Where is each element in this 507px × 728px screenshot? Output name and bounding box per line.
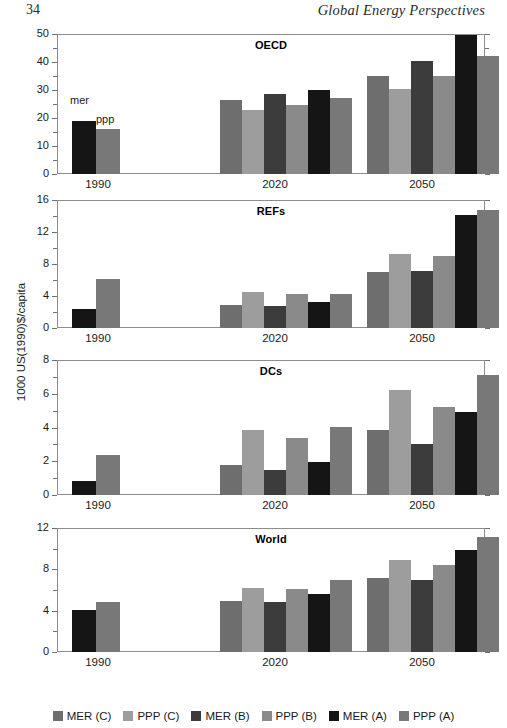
y-tick-label: 30 [11, 83, 49, 95]
bar [477, 56, 499, 174]
x-tick-label: 2050 [387, 656, 457, 668]
x-tick-label: 2020 [240, 656, 310, 668]
y-tick-mark [52, 428, 57, 429]
x-tick-label: 2020 [240, 499, 310, 511]
y-tick-mark-right [485, 146, 490, 147]
plot-area [57, 200, 485, 328]
y-minor-tick-mark [53, 411, 57, 412]
y-tick-mark-right [485, 394, 490, 395]
y-tick-mark [52, 528, 57, 529]
x-tick-label: 2050 [387, 178, 457, 190]
y-tick-mark [52, 360, 57, 361]
y-minor-tick-mark [485, 216, 489, 217]
bar [455, 35, 477, 174]
y-minor-tick-mark [485, 104, 489, 105]
chart-panel-oecd: OECD01020304050199020202050merppp [0, 0, 507, 728]
bar [308, 594, 330, 652]
bar [308, 90, 330, 174]
y-tick-mark [52, 296, 57, 297]
plot-area [57, 34, 485, 174]
y-tick-mark-right [485, 428, 490, 429]
bar [477, 537, 499, 652]
bar [367, 578, 389, 652]
panel-title: OECD [231, 39, 311, 51]
y-minor-tick-mark [485, 48, 489, 49]
y-minor-tick-mark [485, 312, 489, 313]
y-tick-mark [52, 569, 57, 570]
y-tick-mark-right [485, 232, 490, 233]
chart-panel-refs: REFs0481216199020202050 [0, 0, 507, 728]
bar [330, 580, 352, 652]
bar [72, 121, 96, 174]
y-minor-tick-mark [485, 411, 489, 412]
legend-item: PPP (B) [262, 710, 317, 722]
y-tick-label: 4 [11, 604, 49, 616]
chart-panel-dcs: DCs02468199020202050 [0, 0, 507, 728]
legend-swatch-icon [191, 711, 201, 721]
y-tick-label: 0 [11, 167, 49, 179]
legend-swatch-icon [329, 711, 339, 721]
y-tick-mark [52, 200, 57, 201]
y-tick-label: 0 [11, 645, 49, 657]
bar [264, 470, 286, 495]
y-tick-mark [52, 90, 57, 91]
bar [308, 302, 330, 328]
legend-label: PPP (A) [413, 710, 454, 722]
bar [367, 430, 389, 495]
bar [330, 98, 352, 174]
y-tick-mark-right [485, 200, 490, 201]
y-tick-mark [52, 232, 57, 233]
y-tick-mark-right [485, 296, 490, 297]
y-axis-title: 1000 US(1990)$/capita [15, 277, 27, 407]
bar [72, 610, 96, 652]
page-number: 34 [26, 2, 40, 18]
y-minor-tick-mark [53, 132, 57, 133]
bar [367, 76, 389, 174]
x-tick-label: 2050 [387, 499, 457, 511]
y-tick-label: 4 [11, 421, 49, 433]
annotation-mer: mer [70, 94, 89, 106]
y-tick-label: 2 [11, 454, 49, 466]
y-minor-tick-mark [53, 248, 57, 249]
y-minor-tick-mark [53, 76, 57, 77]
bar [455, 412, 477, 495]
y-minor-tick-mark [53, 216, 57, 217]
bar [96, 602, 120, 652]
y-tick-mark-right [485, 652, 490, 653]
y-minor-tick-mark [485, 160, 489, 161]
y-tick-mark-right [485, 328, 490, 329]
y-tick-mark [52, 174, 57, 175]
y-tick-mark-right [485, 528, 490, 529]
y-tick-mark [52, 461, 57, 462]
y-tick-label: 40 [11, 55, 49, 67]
x-tick-label: 1990 [63, 178, 133, 190]
page-header: 34 Global Energy Perspectives [0, 0, 507, 24]
y-tick-label: 8 [11, 562, 49, 574]
y-minor-tick-mark [485, 590, 489, 591]
bar [220, 465, 242, 495]
x-tick-label: 1990 [63, 332, 133, 344]
y-tick-mark-right [485, 90, 490, 91]
bar [96, 455, 120, 495]
bar [411, 61, 433, 174]
bar [389, 390, 411, 495]
bar [433, 407, 455, 495]
y-tick-mark [52, 495, 57, 496]
bar [96, 129, 120, 174]
chart-legend: MER (C)PPP (C)MER (B)PPP (B)MER (A)PPP (… [0, 703, 507, 728]
bar [96, 279, 120, 328]
y-tick-mark [52, 62, 57, 63]
panel-title: World [231, 533, 311, 545]
bar [433, 565, 455, 652]
bar [286, 589, 308, 652]
y-minor-tick-mark [485, 248, 489, 249]
bar [330, 294, 352, 328]
bar [220, 601, 242, 652]
bar [242, 110, 264, 174]
y-minor-tick-mark [485, 280, 489, 281]
legend-label: MER (A) [343, 710, 387, 722]
legend-item: MER (B) [191, 710, 249, 722]
y-tick-label: 50 [11, 27, 49, 39]
plot-area [57, 360, 485, 495]
bar [308, 462, 330, 495]
